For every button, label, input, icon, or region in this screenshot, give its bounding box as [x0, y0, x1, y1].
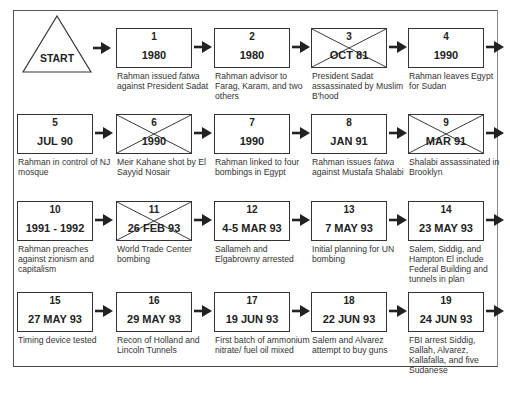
event-number: 2 — [215, 31, 289, 42]
event-date: 23 MAY 93 — [409, 222, 483, 234]
description-text: Sallameh and Elgabrowny arrested — [215, 244, 294, 264]
event-box-8: 8JAN 91 — [311, 114, 387, 154]
event-description: Rahman leaves Egypt for Sudan — [409, 71, 504, 91]
event-description: Salem, Siddig, and Hampton El include Fe… — [409, 244, 504, 284]
description-text: First batch of ammonium nitrate/ fuel oi… — [215, 335, 310, 355]
event-number: 13 — [312, 204, 386, 215]
event-description: Rahman in control of NJ mosque — [18, 157, 113, 177]
event-number: 18 — [312, 295, 386, 306]
description-text: Meir Kahane shot by El Sayyid Nosair — [117, 157, 206, 177]
arrow-right-icon — [292, 127, 310, 139]
event-description: FBI arrest Siddig, Sallah, Alvarez, Kall… — [409, 335, 504, 375]
event-number: 6 — [117, 117, 191, 128]
event-description: Sallameh and Elgabrowny arrested — [215, 244, 310, 264]
event-description: Rahman preaches against zionism and capi… — [18, 244, 113, 274]
event-description: Meir Kahane shot by El Sayyid Nosair — [117, 157, 212, 177]
event-description: Initial planning for UN bombing — [312, 244, 407, 264]
event-date: 1991 - 1992 — [18, 222, 92, 234]
event-description: Recon of Holland and Lincoln Tunnels — [117, 335, 212, 355]
description-text-tail: against Mustafa Shalabi — [312, 167, 404, 177]
description-text: Recon of Holland and Lincoln Tunnels — [117, 335, 200, 355]
event-date: JAN 91 — [312, 135, 386, 147]
event-description: First batch of ammonium nitrate/ fuel oi… — [215, 335, 310, 355]
event-date: 27 MAY 93 — [18, 313, 92, 325]
event-date: MAR 91 — [409, 135, 483, 147]
event-number: 9 — [409, 117, 483, 128]
event-description: World Trade Center bombing — [117, 244, 212, 264]
event-description: Rahman issued fatwa against President Sa… — [117, 71, 212, 91]
description-text-tail: against President Sadat — [117, 81, 208, 91]
event-box-18: 1822 JUN 93 — [311, 292, 387, 332]
event-box-17: 1719 JUN 93 — [214, 292, 290, 332]
arrow-right-icon — [486, 305, 504, 317]
event-box-19: 1924 JUN 93 — [408, 292, 484, 332]
event-date: 22 JUN 93 — [312, 313, 386, 325]
arrow-right-icon — [95, 305, 113, 317]
description-text: Rahman preaches against zionism and capi… — [18, 244, 94, 274]
event-date: 1990 — [215, 135, 289, 147]
arrow-right-icon — [194, 214, 212, 226]
event-description: Rahman advisor to Farag, Karam, and two … — [215, 71, 310, 101]
event-date: 1990 — [117, 135, 191, 147]
description-text: Rahman issued — [117, 71, 179, 81]
arrow-right-icon — [486, 127, 504, 139]
event-box-3: 3OCT 81 — [311, 28, 387, 68]
event-number: 14 — [409, 204, 483, 215]
event-box-2: 21980 — [214, 28, 290, 68]
event-date: OCT 81 — [312, 49, 386, 61]
event-description: Rahman issues fatwa against Mustafa Shal… — [312, 157, 407, 177]
event-date: JUL 90 — [18, 135, 92, 147]
arrow-right-icon — [93, 42, 111, 54]
description-text: Rahman linked to four bombings in Egypt — [215, 157, 299, 177]
description-text: FBI arrest Siddig, Sallah, Alvarez, Kall… — [409, 335, 479, 375]
event-box-5: 5JUL 90 — [17, 114, 93, 154]
event-description: Rahman linked to four bombings in Egypt — [215, 157, 310, 177]
event-date: 1980 — [117, 49, 191, 61]
arrow-right-icon — [95, 127, 113, 139]
arrow-right-icon — [486, 41, 504, 53]
description-text: Rahman issues — [312, 157, 374, 167]
event-description: President Sadat assassinated by Muslim B… — [312, 71, 407, 101]
event-number: 15 — [18, 295, 92, 306]
event-box-4: 41990 — [408, 28, 484, 68]
description-emphasis: fatwa — [374, 157, 395, 167]
arrow-right-icon — [389, 127, 407, 139]
event-box-13: 137 MAY 93 — [311, 201, 387, 241]
description-text: Timing device tested — [18, 335, 97, 345]
event-description: Shalabi assassinated in Brooklyn — [409, 157, 504, 177]
event-number: 7 — [215, 117, 289, 128]
description-text: Salem, Siddig, and Hampton El include Fe… — [409, 244, 488, 284]
event-box-14: 1423 MAY 93 — [408, 201, 484, 241]
event-number: 10 — [18, 204, 92, 215]
description-text: Rahman advisor to Farag, Karam, and two … — [215, 71, 302, 101]
event-number: 4 — [409, 31, 483, 42]
event-date: 24 JUN 93 — [409, 313, 483, 325]
description-text: President Sadat assassinated by Muslim B… — [312, 71, 403, 101]
description-text: Rahman in control of NJ mosque — [18, 157, 110, 177]
event-box-7: 71990 — [214, 114, 290, 154]
arrow-right-icon — [95, 214, 113, 226]
event-date: 1990 — [409, 49, 483, 61]
event-number: 1 — [117, 31, 191, 42]
description-text: Initial planning for UN bombing — [312, 244, 394, 264]
arrow-right-icon — [292, 305, 310, 317]
event-box-12: 124-5 MAR 93 — [214, 201, 290, 241]
event-box-6: 61990 — [116, 114, 192, 154]
arrow-right-icon — [389, 41, 407, 53]
start-triangle-icon — [22, 15, 92, 73]
event-box-10: 101991 - 1992 — [17, 201, 93, 241]
event-box-15: 1527 MAY 93 — [17, 292, 93, 332]
event-box-11: 1126 FEB 93 — [116, 201, 192, 241]
description-text: Rahman leaves Egypt for Sudan — [409, 71, 493, 91]
event-date: 26 FEB 93 — [117, 222, 191, 234]
arrow-right-icon — [292, 214, 310, 226]
event-number: 19 — [409, 295, 483, 306]
event-box-1: 11980 — [116, 28, 192, 68]
event-number: 3 — [312, 31, 386, 42]
event-description: Timing device tested — [18, 335, 113, 345]
event-box-16: 1629 MAY 93 — [116, 292, 192, 332]
event-date: 7 MAY 93 — [312, 222, 386, 234]
event-description: Salem and Alvarez attempt to buy guns — [312, 335, 407, 355]
arrow-right-icon — [389, 214, 407, 226]
event-number: 8 — [312, 117, 386, 128]
